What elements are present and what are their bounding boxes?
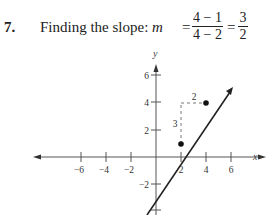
coordinate-graph: −6 −4 −2 2 4 6 x 6 4 2 −2 y 3 2	[0, 0, 279, 215]
x-axis: −6 −4 −2 2 4 6 x	[33, 151, 266, 175]
point-4-4	[203, 100, 209, 106]
x-tick-label: −2	[124, 165, 134, 175]
y-tick-label: −2	[139, 180, 149, 190]
y-axis-label: y	[152, 48, 158, 59]
x-tick-label: 6	[229, 165, 234, 175]
plotted-line	[147, 87, 233, 215]
rise-label: 3	[173, 119, 178, 129]
y-axis-up-arrow-icon	[154, 64, 159, 72]
y-tick-label: 4	[144, 98, 149, 108]
point-2-1	[178, 141, 184, 147]
y-axis: 6 4 2 −2 y	[139, 48, 161, 215]
x-tick-label: −6	[74, 165, 84, 175]
x-tick-label: −4	[99, 165, 109, 175]
run-label: 2	[192, 92, 197, 102]
y-tick-label: 2	[144, 126, 149, 136]
x-axis-right-arrow-icon	[258, 155, 266, 160]
x-axis-label: x	[252, 151, 258, 162]
x-tick-label: 4	[204, 165, 209, 175]
x-axis-left-arrow-icon	[33, 155, 41, 160]
y-tick-label: 6	[144, 71, 149, 81]
